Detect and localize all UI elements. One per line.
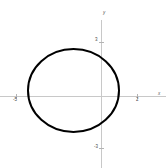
plot-figure: y 3 -3 -5 2 x (0, 0, 166, 168)
x-tick-label-neg5: -5 (13, 98, 17, 103)
x-tick-label-2: 2 (136, 98, 139, 103)
x-axis-label: x (158, 92, 160, 97)
y-axis-label: y (103, 11, 105, 16)
circle-curve (28, 49, 119, 132)
y-tick-label-3: 3 (95, 38, 98, 43)
y-tick-label-neg3: -3 (94, 145, 98, 150)
plot-canvas (0, 0, 166, 168)
